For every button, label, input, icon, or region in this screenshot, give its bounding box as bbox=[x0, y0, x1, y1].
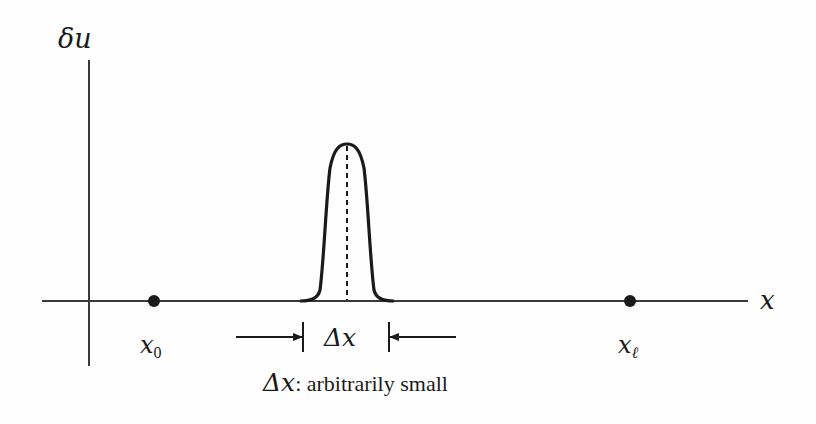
point-xl-label: xℓ bbox=[618, 331, 639, 362]
caption: Δx: arbitrarily small bbox=[262, 368, 448, 397]
width-label: Δx bbox=[323, 323, 356, 352]
point-x0-label: x0 bbox=[140, 331, 162, 361]
point-xl-marker bbox=[624, 295, 636, 307]
y-axis-label: δu bbox=[58, 23, 92, 54]
diagram-svg: δu x x0 xℓ Δx Δx: arbitrarily small bbox=[0, 0, 816, 424]
point-x0-marker bbox=[148, 295, 160, 307]
diagram-canvas: δu x x0 xℓ Δx Δx: arbitrarily small bbox=[0, 0, 816, 424]
x-axis-label: x bbox=[760, 285, 775, 315]
